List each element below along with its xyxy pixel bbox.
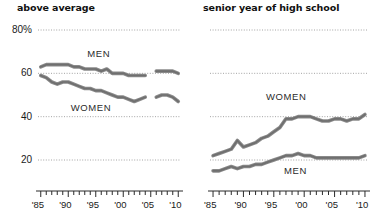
x-axis-tick-label: '90 xyxy=(59,199,71,210)
chart-plot-area xyxy=(0,0,374,220)
y-axis-tick-label: 80% xyxy=(0,24,32,35)
y-axis-tick-label: 40 xyxy=(0,111,32,122)
x-axis-tick-label: '10 xyxy=(356,199,368,210)
x-axis-tick-label: '95 xyxy=(265,199,277,210)
x-axis-tick-label: '85 xyxy=(32,199,44,210)
series-label-women: WOMEN xyxy=(71,102,111,113)
x-axis-tick-label: '10 xyxy=(169,199,181,210)
x-axis-tick-label: '85 xyxy=(204,199,216,210)
chart-figure: above average senior year of high school… xyxy=(0,0,374,220)
panel-title-right: senior year of high school xyxy=(203,2,339,13)
x-axis-tick-label: '05 xyxy=(142,199,154,210)
series-line xyxy=(213,115,365,156)
panel-title-left: above average xyxy=(17,2,95,13)
y-axis-tick-label: 60 xyxy=(0,67,32,78)
series-line xyxy=(41,76,146,102)
series-label-men: MEN xyxy=(284,165,307,176)
x-axis-tick-label: '00 xyxy=(114,199,126,210)
series-line xyxy=(41,65,146,76)
x-axis-tick-label: '05 xyxy=(326,199,338,210)
series-label-men: MEN xyxy=(87,48,110,59)
x-axis-tick-label: '90 xyxy=(234,199,246,210)
x-axis-tick-label: '00 xyxy=(295,199,307,210)
x-axis-tick-label: '95 xyxy=(87,199,99,210)
y-axis-tick-label: 20 xyxy=(0,154,32,165)
series-label-women: WOMEN xyxy=(266,91,306,102)
